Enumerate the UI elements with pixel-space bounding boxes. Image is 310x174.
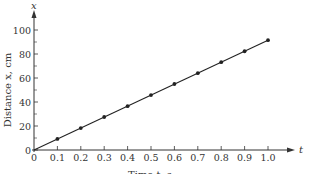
x-axis-title: Time t, s bbox=[128, 169, 172, 174]
x-axis-arrow-icon bbox=[287, 148, 295, 153]
data-point bbox=[79, 126, 83, 130]
data-point bbox=[56, 137, 60, 141]
x-tick-label: 1.0 bbox=[260, 152, 275, 163]
data-point bbox=[173, 82, 177, 86]
x-axis-symbol: t bbox=[299, 144, 304, 155]
data-point bbox=[102, 115, 106, 119]
y-tick-label: 40 bbox=[19, 97, 31, 108]
data-point bbox=[149, 93, 153, 97]
y-tick-label: 80 bbox=[19, 49, 31, 60]
x-tick-label: 0.3 bbox=[97, 152, 112, 163]
data-point bbox=[243, 49, 247, 53]
x-tick-label: 0.7 bbox=[190, 152, 205, 163]
x-tick-label: 0.8 bbox=[214, 152, 229, 163]
data-point bbox=[196, 71, 200, 75]
y-axis: 020406080100 bbox=[13, 10, 38, 156]
data-point bbox=[266, 38, 270, 42]
data-point bbox=[126, 104, 130, 108]
y-tick-label: 100 bbox=[13, 25, 31, 36]
y-axis-arrow-icon bbox=[32, 10, 37, 18]
y-axis-title: Distance x, cm bbox=[2, 52, 13, 127]
x-tick-label: 0.4 bbox=[120, 152, 135, 163]
x-tick-label: 0.6 bbox=[167, 152, 182, 163]
y-tick-label: 60 bbox=[19, 73, 31, 84]
x-tick-label: 0 bbox=[31, 152, 37, 163]
y-axis-symbol: x bbox=[31, 0, 37, 11]
data-point bbox=[219, 60, 223, 64]
x-tick-label: 0.9 bbox=[237, 152, 252, 163]
data-series bbox=[34, 38, 270, 150]
y-tick-label: 20 bbox=[19, 121, 31, 132]
x-tick-label: 0.1 bbox=[50, 152, 65, 163]
x-tick-label: 0.2 bbox=[73, 152, 88, 163]
distance-time-chart: 020406080100 00.10.20.30.40.50.60.70.80.… bbox=[0, 0, 310, 174]
x-axis: 00.10.20.30.40.50.60.70.80.91.0 bbox=[31, 146, 295, 163]
x-tick-label: 0.5 bbox=[143, 152, 158, 163]
